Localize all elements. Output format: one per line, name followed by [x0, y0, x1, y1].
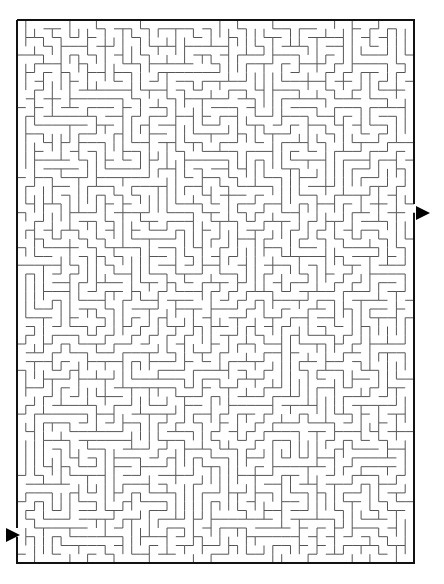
- maze-walls: [17, 20, 414, 563]
- entry-arrow-left-icon: [6, 528, 20, 542]
- entry-arrow-right-icon: [416, 206, 430, 220]
- maze-grid: [0, 0, 444, 584]
